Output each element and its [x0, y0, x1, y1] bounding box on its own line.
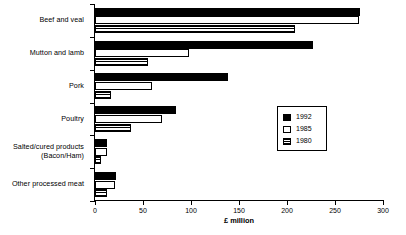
bar-1980: [95, 156, 101, 164]
bar-group: [95, 168, 383, 201]
x-axis-tick: [335, 201, 336, 205]
x-axis-tick-label: 100: [176, 206, 206, 215]
bar-1992: [95, 41, 313, 49]
legend-label-1992: 1992: [296, 113, 312, 121]
legend-swatch-1992-icon: [283, 114, 291, 121]
legend-label-1980: 1980: [296, 137, 312, 145]
category-label: Poultry: [0, 115, 89, 124]
bar-1992: [95, 73, 228, 81]
x-axis-tick: [95, 201, 96, 205]
y-axis-tick: [90, 168, 95, 169]
chart-legend: 1992 1985 1980: [277, 106, 327, 151]
category-label: Other processed meat: [0, 180, 89, 189]
bar-1992: [95, 106, 176, 114]
bar-group: [95, 70, 383, 103]
y-axis-tick: [90, 135, 95, 136]
x-axis-tick-label: 150: [224, 206, 254, 215]
plot-area: [95, 4, 383, 201]
category-label: Beef and veal: [0, 16, 89, 25]
x-axis-tick-label: 50: [128, 206, 158, 215]
legend-item-1992: 1992: [283, 111, 326, 123]
x-axis-tick: [143, 201, 144, 205]
x-axis-tick: [191, 201, 192, 205]
x-axis-tick-label: 200: [272, 206, 302, 215]
category-label: Pork: [0, 82, 89, 91]
legend-swatch-1985-icon: [283, 126, 291, 133]
bar-chart: Beef and vealMutton and lambPorkPoultryS…: [0, 0, 406, 235]
legend-item-1980: 1980: [283, 135, 326, 147]
bar-1985: [95, 181, 115, 189]
legend-swatch-1980-icon: [283, 138, 291, 145]
legend-item-1985: 1985: [283, 123, 326, 135]
x-axis-tick-label: 250: [320, 206, 350, 215]
bar-group: [95, 135, 383, 168]
bar-group: [95, 4, 383, 37]
bar-1985: [95, 16, 359, 24]
x-axis-title: £ million: [95, 216, 383, 225]
bar-1980: [95, 91, 111, 99]
bar-1980: [95, 58, 148, 66]
y-axis-tick: [90, 70, 95, 71]
bar-1985: [95, 49, 189, 57]
bar-1980: [95, 189, 107, 197]
bar-1980: [95, 25, 295, 33]
y-axis-tick: [90, 37, 95, 38]
bar-1985: [95, 82, 152, 90]
bar-1992: [95, 8, 360, 16]
x-axis-tick: [287, 201, 288, 205]
x-axis-tick: [383, 201, 384, 205]
x-axis-tick-label: 0: [80, 206, 110, 215]
bar-group: [95, 37, 383, 70]
y-axis-tick: [90, 4, 95, 5]
category-label: Mutton and lamb: [0, 49, 89, 58]
bar-1992: [95, 172, 116, 180]
category-label: Salted/cured products (Bacon/Ham): [0, 143, 89, 160]
bar-1992: [95, 139, 107, 147]
bar-1985: [95, 115, 162, 123]
category-axis-labels: Beef and vealMutton and lambPorkPoultryS…: [0, 0, 89, 205]
x-axis-tick: [239, 201, 240, 205]
bar-group: [95, 103, 383, 136]
legend-label-1985: 1985: [296, 125, 312, 133]
bar-1985: [95, 148, 107, 156]
bar-1980: [95, 124, 131, 132]
y-axis-tick: [90, 103, 95, 104]
x-axis-tick-label: 300: [368, 206, 398, 215]
